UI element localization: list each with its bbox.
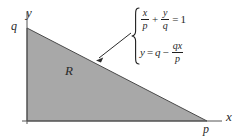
- right-hand-side: 1: [180, 14, 186, 25]
- fraction-numerator: qx: [172, 41, 183, 52]
- minus-operator: −: [163, 47, 169, 58]
- y-intercept-label: q: [11, 20, 17, 32]
- fraction-denominator: q: [162, 21, 169, 32]
- equation-callout: x p + y q = 1 y = q − qx p: [131, 7, 239, 65]
- lhs-variable: y: [140, 47, 145, 58]
- region-label: R: [65, 64, 73, 77]
- curly-brace-icon: [131, 7, 140, 65]
- curly-brace: [131, 7, 140, 65]
- term-q: q: [155, 47, 161, 58]
- equals-sign: =: [172, 14, 178, 25]
- equation-rows: x p + y q = 1 y = q − qx p: [140, 7, 239, 65]
- equation-line-1: x p + y q = 1: [140, 8, 239, 31]
- fraction-qx-over-p: qx p: [172, 41, 183, 64]
- x-axis-label: x: [226, 110, 232, 123]
- fraction-x-over-p: x p: [141, 8, 149, 31]
- fraction-numerator: y: [162, 8, 168, 19]
- fraction-denominator: p: [142, 21, 149, 32]
- equals-sign: =: [147, 47, 153, 58]
- fraction-denominator: p: [174, 54, 181, 65]
- x-intercept-label: p: [203, 123, 209, 135]
- equation-line-2: y = q − qx p: [140, 41, 239, 64]
- fraction-numerator: x: [142, 8, 148, 19]
- fraction-y-over-q: y q: [161, 8, 169, 31]
- y-axis-label: y: [26, 6, 32, 19]
- plus-operator: +: [152, 14, 158, 25]
